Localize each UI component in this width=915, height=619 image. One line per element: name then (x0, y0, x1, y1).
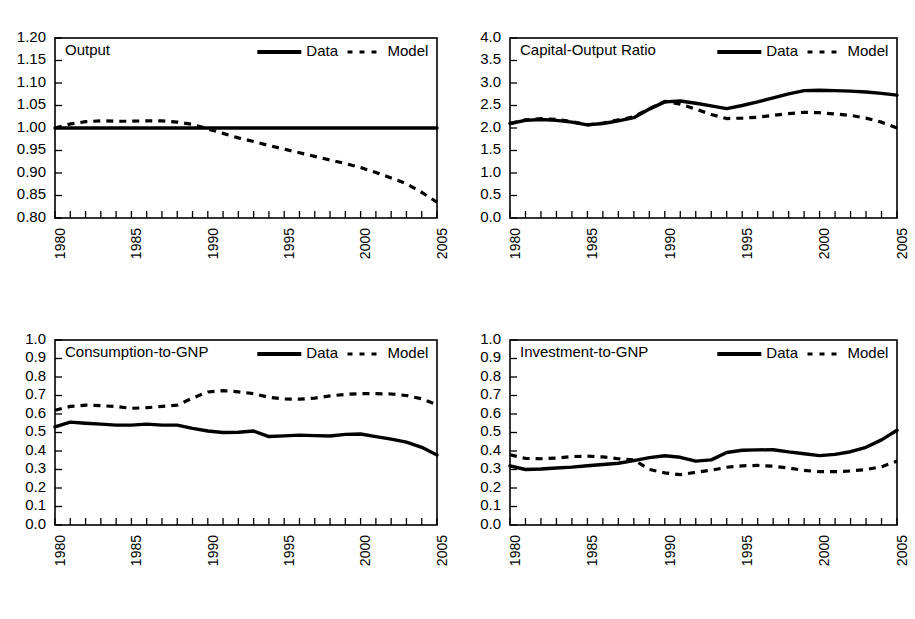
y-axis-tick-label: 1.00 (17, 118, 46, 135)
x-axis-tick-label: 1985 (584, 535, 600, 566)
x-axis-tick-label: 1985 (128, 228, 144, 259)
panel-title: Capital-Output Ratio (520, 41, 656, 58)
series-line-model (55, 121, 437, 202)
plot-frame (510, 340, 897, 525)
y-axis-tick-label: 0.2 (480, 478, 501, 495)
x-axis-tick-label: 1990 (662, 535, 678, 566)
x-axis-tick-label: 2000 (816, 228, 832, 259)
y-axis-tick-label: 0.2 (25, 478, 46, 495)
y-axis-tick-label: 0.90 (17, 163, 46, 180)
y-axis-tick-label: 0.6 (25, 404, 46, 421)
x-axis-tick-label: 1995 (739, 535, 755, 566)
series-line-model (510, 455, 897, 475)
chart-panel-bottom-left: 0.00.10.20.30.40.50.60.70.80.91.01980198… (0, 312, 455, 617)
legend-label-model: Model (848, 344, 889, 361)
x-axis-tick-label: 1980 (52, 228, 68, 259)
x-axis-tick-label: 1980 (507, 535, 523, 566)
panel-title: Investment-to-GNP (520, 343, 648, 360)
x-axis-tick-label: 2000 (357, 535, 373, 566)
y-axis-tick-label: 0.95 (17, 140, 46, 157)
y-axis-tick-label: 0.7 (480, 385, 501, 402)
x-axis-tick-label: 1985 (128, 535, 144, 566)
x-axis-tick-label: 1985 (584, 228, 600, 259)
x-axis-tick-label: 2000 (357, 228, 373, 259)
y-axis-tick-label: 0.0 (25, 515, 46, 532)
y-axis-tick-label: 1.0 (480, 330, 501, 347)
chart-svg: 0.00.10.20.30.40.50.60.70.80.91.01980198… (0, 312, 455, 617)
x-axis-tick-label: 2005 (434, 228, 450, 259)
x-axis-tick-label: 1980 (507, 228, 523, 259)
series-line-model (55, 391, 437, 411)
y-axis-tick-label: 0.1 (25, 496, 46, 513)
x-axis-tick-label: 2005 (894, 228, 910, 259)
y-axis-tick-label: 0.5 (480, 422, 501, 439)
y-axis-tick-label: 0.5 (480, 185, 501, 202)
x-axis-tick-label: 1995 (281, 228, 297, 259)
chart-svg: 0.00.51.01.52.02.53.03.54.01980198519901… (455, 10, 915, 310)
legend-label-data: Data (766, 42, 798, 59)
chart-svg: 0.800.850.900.951.001.051.101.151.201980… (0, 10, 455, 310)
panel-title: Output (65, 41, 111, 58)
chart-panel-bottom-right: 0.00.10.20.30.40.50.60.70.80.91.01980198… (455, 312, 915, 617)
x-axis-tick-label: 2000 (816, 535, 832, 566)
y-axis-tick-label: 0.4 (480, 441, 501, 458)
y-axis-tick-label: 0.6 (480, 404, 501, 421)
y-axis-tick-label: 2.0 (480, 118, 501, 135)
panel-title: Consumption-to-GNP (65, 343, 208, 360)
legend-label-model: Model (388, 42, 429, 59)
y-axis-tick-label: 0.85 (17, 185, 46, 202)
x-axis-tick-label: 1995 (739, 228, 755, 259)
plot-frame (510, 38, 897, 218)
series-line-data (510, 430, 897, 469)
y-axis-tick-label: 1.0 (480, 163, 501, 180)
legend-label-data: Data (306, 42, 338, 59)
y-axis-tick-label: 3.0 (480, 73, 501, 90)
y-axis-tick-label: 1.15 (17, 50, 46, 67)
y-axis-tick-label: 0.0 (480, 515, 501, 532)
y-axis-tick-label: 0.5 (25, 422, 46, 439)
y-axis-tick-label: 0.80 (17, 208, 46, 225)
chart-svg: 0.00.10.20.30.40.50.60.70.80.91.01980198… (455, 312, 915, 617)
y-axis-tick-label: 0.7 (25, 385, 46, 402)
y-axis-tick-label: 0.0 (480, 208, 501, 225)
y-axis-tick-label: 1.05 (17, 95, 46, 112)
x-axis-tick-label: 1990 (205, 535, 221, 566)
legend-label-data: Data (766, 344, 798, 361)
y-axis-tick-label: 0.4 (25, 441, 46, 458)
x-axis-tick-label: 1995 (281, 535, 297, 566)
y-axis-tick-label: 0.3 (480, 459, 501, 476)
y-axis-tick-label: 4.0 (480, 28, 501, 45)
y-axis-tick-label: 1.0 (25, 330, 46, 347)
legend-label-model: Model (388, 344, 429, 361)
x-axis-tick-label: 1990 (662, 228, 678, 259)
y-axis-tick-label: 0.3 (25, 459, 46, 476)
y-axis-tick-label: 0.1 (480, 496, 501, 513)
x-axis-tick-label: 2005 (894, 535, 910, 566)
x-axis-tick-label: 2005 (434, 535, 450, 566)
y-axis-tick-label: 0.8 (480, 367, 501, 384)
figure-panel-grid: 0.800.850.900.951.001.051.101.151.201980… (0, 0, 915, 619)
y-axis-tick-label: 1.20 (17, 28, 46, 45)
y-axis-tick-label: 1.5 (480, 140, 501, 157)
legend-label-model: Model (848, 42, 889, 59)
y-axis-tick-label: 3.5 (480, 50, 501, 67)
chart-panel-top-right: 0.00.51.01.52.02.53.03.54.01980198519901… (455, 10, 915, 310)
y-axis-tick-label: 0.8 (25, 367, 46, 384)
series-line-data (55, 422, 437, 455)
y-axis-tick-label: 2.5 (480, 95, 501, 112)
y-axis-tick-label: 1.10 (17, 73, 46, 90)
legend-label-data: Data (306, 344, 338, 361)
x-axis-tick-label: 1980 (52, 535, 68, 566)
x-axis-tick-label: 1990 (205, 228, 221, 259)
y-axis-tick-label: 0.9 (480, 348, 501, 365)
chart-panel-top-left: 0.800.850.900.951.001.051.101.151.201980… (0, 10, 455, 310)
y-axis-tick-label: 0.9 (25, 348, 46, 365)
